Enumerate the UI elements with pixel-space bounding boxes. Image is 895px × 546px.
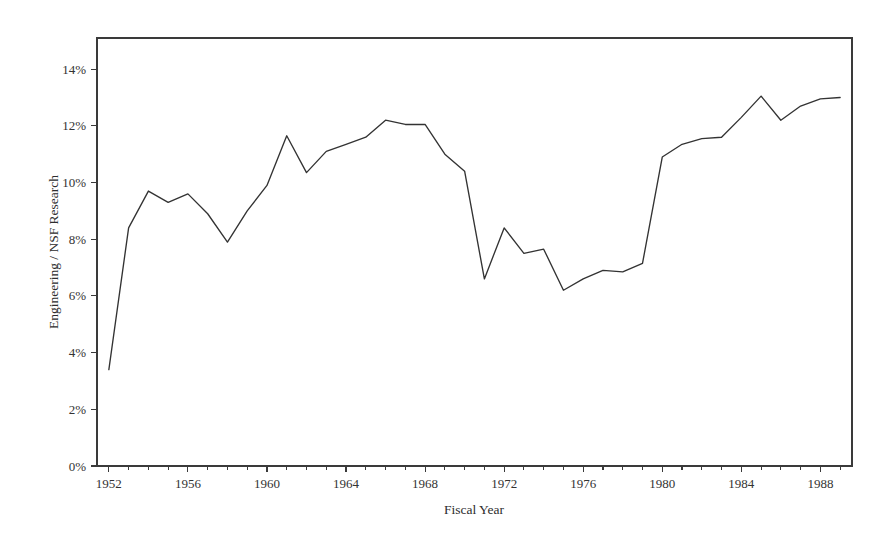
x-tick-label: 1968 [412,476,438,491]
y-tick-label: 4% [69,345,87,360]
y-axis-title: Engineering / NSF Research [46,175,61,329]
x-tick-label: 1972 [491,476,517,491]
y-tick-label: 6% [69,288,87,303]
plot-area-frame [97,38,852,466]
x-tick-label: 1976 [570,476,597,491]
y-tick-label: 10% [62,175,86,190]
y-tick-label: 8% [69,232,87,247]
x-tick-label: 1988 [807,476,833,491]
x-tick-label: 1956 [175,476,202,491]
chart-figure: 0%2%4%6%8%10%12%14% 19521956196019641968… [0,0,895,546]
y-tick-label: 2% [69,402,87,417]
x-tick-label: 1984 [728,476,755,491]
x-tick-label: 1964 [333,476,360,491]
y-axis-ticks [91,69,97,466]
data-series-line [109,96,840,370]
y-tick-label: 0% [69,459,87,474]
x-axis-tick-labels: 1952195619601964196819721976198019841988 [96,476,834,491]
x-tick-label: 1960 [254,476,280,491]
x-tick-label: 1980 [649,476,675,491]
y-tick-label: 12% [62,118,86,133]
y-tick-label: 14% [62,62,86,77]
line-chart: 0%2%4%6%8%10%12%14% 19521956196019641968… [0,0,895,546]
y-axis-tick-labels: 0%2%4%6%8%10%12%14% [62,62,86,474]
x-tick-label: 1952 [96,476,122,491]
x-axis-title: Fiscal Year [444,502,505,517]
